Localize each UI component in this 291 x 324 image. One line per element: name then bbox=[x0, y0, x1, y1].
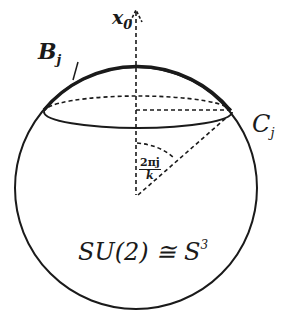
sphere-diagram: x0 Bj Cj 2πjk SU(2) ≅ S3 bbox=[0, 0, 291, 324]
axis-label-base: x bbox=[112, 6, 123, 28]
angle-label: 2πjk bbox=[139, 157, 161, 182]
circle-label-cj: Cj bbox=[252, 110, 274, 138]
axis-label-sub: 0 bbox=[123, 17, 132, 32]
axis-label-x0: x0 bbox=[112, 6, 132, 28]
arc-label-bj: Bj bbox=[38, 38, 61, 64]
circle-label-base: C bbox=[252, 110, 270, 138]
angle-denominator: k bbox=[139, 170, 161, 182]
bj-pointer bbox=[73, 62, 78, 80]
arc-bj bbox=[44, 66, 230, 110]
circle-cj-front bbox=[44, 112, 232, 128]
group-label-lhs: SU(2) ≅ S bbox=[78, 238, 200, 266]
group-label: SU(2) ≅ S3 bbox=[78, 238, 208, 266]
circle-label-sub: j bbox=[270, 125, 274, 140]
arc-label-sub: j bbox=[57, 52, 62, 67]
arc-label-base: B bbox=[38, 38, 57, 64]
group-label-sup: 3 bbox=[200, 238, 208, 252]
